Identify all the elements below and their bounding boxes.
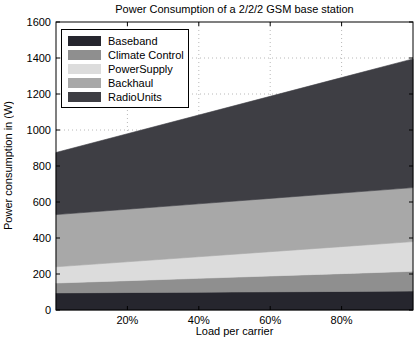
- legend-label: Climate Control: [108, 48, 184, 62]
- legend-item-baseband: Baseband: [68, 34, 186, 48]
- legend-item-backhaul: Backhaul: [68, 76, 186, 90]
- x-tick-label: 60%: [244, 314, 296, 326]
- legend-label: RadioUnits: [108, 90, 162, 104]
- y-tick-label: 1400: [0, 52, 51, 64]
- y-tick-label: 200: [0, 268, 51, 280]
- y-tick-label: 800: [0, 160, 51, 172]
- legend-swatch: [68, 78, 101, 88]
- x-tick-label: 40%: [173, 314, 225, 326]
- area-baseband: [56, 291, 413, 310]
- y-tick-label: 600: [0, 196, 51, 208]
- legend: BasebandClimate ControlPowerSupplyBackha…: [61, 29, 189, 108]
- y-tick-label: 1600: [0, 16, 51, 28]
- legend-label: Baseband: [108, 34, 158, 48]
- y-tick-label: 400: [0, 232, 51, 244]
- legend-item-radiounits: RadioUnits: [68, 90, 186, 104]
- legend-label: PowerSupply: [108, 62, 173, 76]
- y-tick-label: 0: [0, 304, 51, 316]
- y-tick-label: 1200: [0, 88, 51, 100]
- legend-item-climate-control: Climate Control: [68, 48, 186, 62]
- legend-swatch: [68, 92, 101, 102]
- y-tick-label: 1000: [0, 124, 51, 136]
- figure: Power Consumption of a 2/2/2 GSM base st…: [0, 0, 419, 345]
- legend-swatch: [68, 64, 101, 74]
- legend-item-powersupply: PowerSupply: [68, 62, 186, 76]
- x-tick-label: 80%: [316, 314, 368, 326]
- legend-label: Backhaul: [108, 76, 153, 90]
- legend-swatch: [68, 50, 101, 60]
- x-tick-label: 20%: [101, 314, 153, 326]
- legend-swatch: [68, 36, 101, 46]
